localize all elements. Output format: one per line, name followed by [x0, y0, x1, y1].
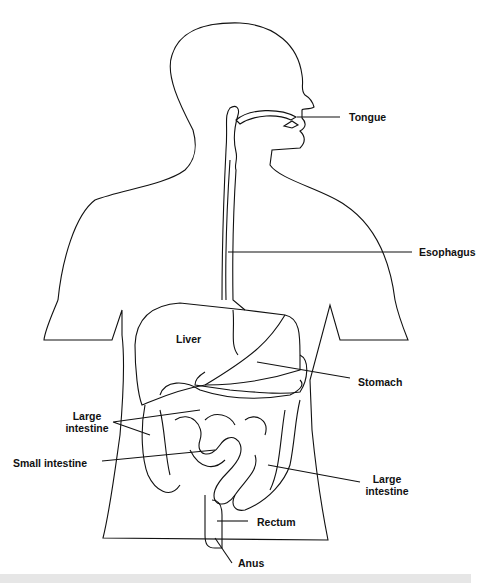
label-large-intestine-left-line1: Large	[62, 410, 112, 422]
leader-stomach	[257, 362, 350, 378]
digestive-system-diagram: Tongue Esophagus Liver Stomach Large int…	[0, 0, 491, 583]
label-tongue: Tongue	[349, 111, 386, 123]
label-large-intestine-right-line1: Large	[362, 473, 412, 485]
liver-outline	[135, 303, 300, 405]
stomach-outline	[195, 355, 307, 393]
leader-small-intestine	[102, 450, 215, 461]
bottom-strip	[0, 574, 471, 583]
label-large-intestine-right-line2: intestine	[362, 485, 412, 497]
leader-anus	[215, 538, 232, 563]
label-rectum: Rectum	[257, 516, 296, 528]
small-intestine-outline	[175, 415, 266, 505]
anatomy-outline	[0, 0, 491, 583]
body-outline	[58, 23, 395, 300]
label-liver: Liver	[176, 333, 201, 345]
large-intestine-outline	[142, 380, 302, 510]
label-stomach: Stomach	[358, 376, 402, 388]
label-large-intestine-right: Large intestine	[362, 473, 412, 497]
label-large-intestine-left: Large intestine	[62, 410, 112, 434]
label-large-intestine-left-line2: intestine	[62, 422, 112, 434]
label-small-intestine: Small intestine	[13, 457, 87, 469]
leader-large-intestine-left	[113, 410, 200, 435]
leader-large-intestine-right	[268, 465, 360, 482]
label-esophagus: Esophagus	[419, 246, 476, 258]
label-anus: Anus	[238, 557, 264, 569]
